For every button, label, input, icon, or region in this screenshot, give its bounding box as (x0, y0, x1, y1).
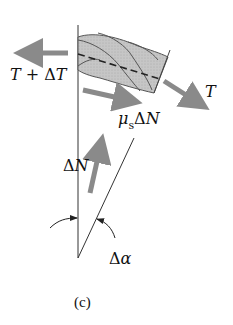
tension-left-label: T + ΔT (10, 67, 66, 83)
normal-force-arrow (90, 148, 100, 193)
angle-label: Δα (109, 251, 131, 267)
friction-arrow (83, 90, 128, 100)
rope-segment (78, 33, 170, 93)
angle-arc-right-icon (97, 219, 115, 238)
angle-arc-left-icon (50, 218, 77, 228)
tension-right-label: T (205, 84, 216, 100)
tension-right-arrow (164, 81, 197, 102)
friction-label: μsΔN (118, 111, 160, 127)
figure-caption: (c) (74, 295, 91, 310)
normal-force-label: ΔN (63, 158, 89, 174)
diagram-canvas (0, 0, 233, 325)
